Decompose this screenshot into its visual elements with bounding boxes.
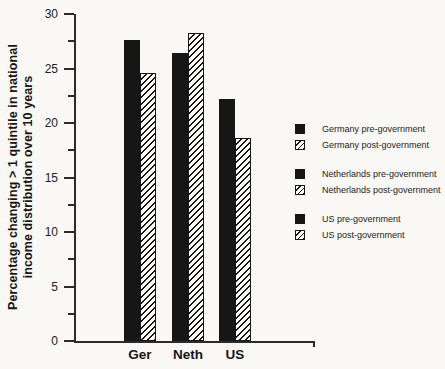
y-axis-tick-label: 10 (26, 224, 58, 240)
legend-swatch-netherlands-post-government (295, 185, 305, 195)
legend-label: US post-government (322, 229, 405, 241)
legend-swatch-germany-post-government (295, 140, 305, 150)
bar-us-pre-government (219, 99, 235, 341)
legend-label: US pre-government (322, 213, 401, 225)
bar-ger-pre-government (124, 40, 140, 341)
y-axis-minor-tick (68, 40, 74, 42)
y-axis-tick-label: 5 (26, 279, 58, 295)
y-axis-tick-label: 30 (26, 6, 58, 22)
y-axis-major-tick (64, 122, 74, 124)
y-axis-major-tick (64, 340, 74, 342)
y-axis-tick-label: 15 (26, 170, 58, 186)
x-axis-category-label: US (205, 347, 265, 362)
y-axis-minor-tick (68, 149, 74, 151)
y-axis-major-tick (64, 286, 74, 288)
y-axis-major-tick (64, 68, 74, 70)
figure-canvas: Percentage changing > 1 quintile in nati… (0, 0, 445, 369)
x-axis-end-cap (313, 341, 315, 347)
y-axis-title-line1: Percentage changing > 1 quintile in nati… (6, 9, 21, 345)
legend-label: Netherlands post-government (322, 184, 441, 196)
y-axis-line (74, 14, 76, 343)
legend-swatch-germany-pre-government (295, 124, 305, 134)
legend-label: Germany pre-government (322, 123, 425, 135)
y-axis-minor-tick (68, 204, 74, 206)
bar-us-post-government (235, 138, 251, 341)
legend-label: Netherlands pre-government (322, 168, 437, 180)
legend-swatch-us-pre-government (295, 214, 305, 224)
bar-neth-post-government (188, 33, 204, 341)
legend-swatch-us-post-government (295, 230, 305, 240)
y-axis-major-tick (64, 231, 74, 233)
bar-ger-post-government (140, 73, 156, 341)
x-axis-line (74, 341, 315, 343)
y-axis-tick-label: 20 (26, 115, 58, 131)
y-axis-tick-label: 0 (26, 333, 58, 349)
legend-swatch-netherlands-pre-government (295, 169, 305, 179)
legend-label: Germany post-government (322, 139, 429, 151)
y-axis-tick-label: 25 (26, 61, 58, 77)
y-axis-major-tick (64, 177, 74, 179)
y-axis-minor-tick (68, 95, 74, 97)
bar-neth-pre-government (172, 53, 188, 341)
y-axis-major-tick (64, 13, 74, 15)
y-axis-minor-tick (68, 258, 74, 260)
y-axis-minor-tick (68, 313, 74, 315)
